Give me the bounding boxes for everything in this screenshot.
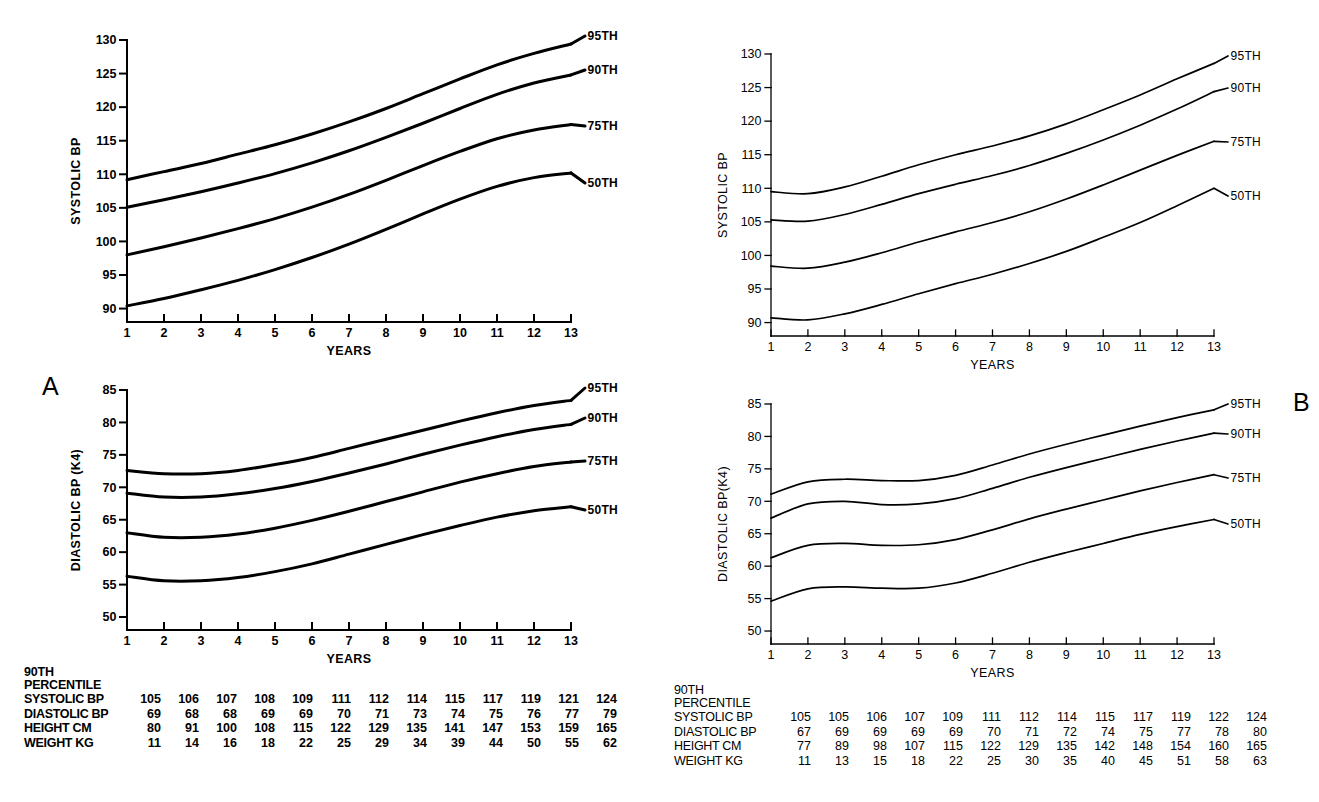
table-cell: 109 — [930, 710, 968, 725]
x-tick-label: 8 — [383, 326, 390, 340]
table-cell: 122 — [318, 721, 356, 736]
row-label: HEIGHT CM — [674, 739, 778, 754]
percentile-label: 90TH — [1231, 81, 1262, 95]
table-cell: 112 — [1006, 710, 1044, 725]
table-cell: 71 — [356, 706, 394, 721]
y-tick-label: 110 — [96, 168, 116, 182]
y-axis-title: DIASTOLIC BP(K4) — [716, 466, 730, 582]
table-cell: 105 — [778, 710, 816, 725]
x-tick-label: 3 — [198, 326, 205, 340]
y-tick-label: 50 — [103, 610, 117, 624]
percentile-curve — [127, 400, 571, 474]
table-cell: 129 — [1006, 739, 1044, 754]
table-cell: 71 — [1006, 724, 1044, 739]
percentile-curve — [771, 433, 1214, 518]
y-tick-label: 125 — [741, 81, 762, 95]
x-tick-label: 6 — [952, 648, 959, 662]
y-tick-label: 85 — [748, 397, 762, 411]
table-cell: 45 — [1120, 753, 1158, 768]
table-cell: 77 — [1158, 724, 1196, 739]
x-tick-label: 3 — [841, 648, 848, 662]
table-cell: 114 — [394, 692, 432, 707]
row-label: WEIGHT KG — [674, 753, 778, 768]
table-row: HEIGHT CM7789981071151221291351421481541… — [674, 739, 1272, 754]
table-cell: 165 — [584, 721, 622, 736]
x-tick-label: 7 — [346, 326, 353, 340]
chart-systolic-panel-b: 9095100105110115120125130123456789101112… — [660, 18, 1319, 388]
row-label: DIASTOLIC BP — [24, 706, 128, 721]
table-cell: 69 — [280, 706, 318, 721]
percentile-curve — [771, 63, 1214, 193]
x-tick-label: 4 — [878, 648, 885, 662]
table-cell: 115 — [930, 739, 968, 754]
table-cell: 58 — [1196, 753, 1234, 768]
x-tick-label: 5 — [915, 648, 922, 662]
y-tick-label: 55 — [748, 592, 762, 606]
table-row: SYSTOLIC BP10510510610710911111211411511… — [674, 710, 1272, 725]
x-tick-label: 8 — [383, 634, 390, 648]
x-tick-label: 10 — [1096, 340, 1110, 354]
y-tick-label: 70 — [748, 495, 762, 509]
x-tick-label: 2 — [804, 340, 811, 354]
percentile-curve — [771, 475, 1214, 558]
table-cell: 22 — [280, 735, 318, 750]
y-tick-label: 75 — [748, 462, 762, 476]
x-tick-label: 6 — [952, 340, 959, 354]
x-tick-label: 7 — [989, 648, 996, 662]
table-cell: 30 — [1006, 753, 1044, 768]
table-cell: 105 — [816, 710, 854, 725]
table-cell: 98 — [854, 739, 892, 754]
table-cell: 111 — [318, 692, 356, 707]
table-header-line1: 90TH — [674, 684, 1272, 697]
x-tick-label: 11 — [490, 326, 503, 340]
curve-leader-line — [1214, 88, 1228, 92]
x-tick-label: 7 — [346, 634, 353, 648]
x-tick-label: 2 — [161, 634, 168, 648]
data-table-panel-a: 90TH PERCENTILE SYSTOLIC BP1051061071081… — [24, 666, 622, 750]
table-cell: 72 — [1044, 724, 1082, 739]
chart-diastolic-panel-a: 505560657075808512345678910111213YEARSDI… — [0, 368, 660, 668]
y-tick-label: 130 — [96, 33, 117, 47]
table-cell: 76 — [508, 706, 546, 721]
x-tick-label: 12 — [1170, 340, 1184, 354]
table-cell: 29 — [356, 735, 394, 750]
table-cell: 106 — [166, 692, 204, 707]
curve-leader-line — [1214, 188, 1228, 196]
x-tick-label: 13 — [1207, 340, 1221, 354]
table-cell: 124 — [584, 692, 622, 707]
table-cell: 105 — [128, 692, 166, 707]
x-tick-label: 9 — [1063, 340, 1070, 354]
table-cell: 122 — [1196, 710, 1234, 725]
table-cell: 111 — [968, 710, 1006, 725]
table-cell: 69 — [854, 724, 892, 739]
table-cell: 11 — [128, 735, 166, 750]
table-cell: 25 — [968, 753, 1006, 768]
y-tick-label: 75 — [103, 448, 117, 462]
table-cell: 115 — [432, 692, 470, 707]
table-cell: 117 — [1120, 710, 1158, 725]
table-cell: 18 — [892, 753, 930, 768]
y-tick-label: 70 — [103, 481, 117, 495]
y-tick-label: 100 — [96, 235, 117, 249]
y-axis-title: DIASTOLIC BP (K4) — [69, 449, 83, 571]
y-tick-label: 90 — [748, 316, 762, 330]
y-tick-label: 115 — [742, 148, 762, 162]
curve-leader-line — [571, 418, 585, 424]
curve-leader-line — [571, 388, 585, 400]
curve-leader-line — [571, 507, 585, 510]
table-cell: 160 — [1196, 739, 1234, 754]
percentile-label: 50TH — [1231, 517, 1262, 531]
table-header-line1: 90TH — [24, 666, 622, 679]
y-tick-label: 105 — [741, 215, 762, 229]
x-tick-label: 4 — [235, 634, 242, 648]
x-tick-label: 5 — [272, 326, 279, 340]
table-cell: 11 — [778, 753, 816, 768]
y-tick-label: 65 — [748, 527, 762, 541]
x-axis-title: YEARS — [970, 358, 1014, 372]
table-cell: 115 — [280, 721, 318, 736]
row-label: DIASTOLIC BP — [674, 724, 778, 739]
table-cell: 135 — [394, 721, 432, 736]
x-tick-label: 11 — [1134, 340, 1147, 354]
x-tick-label: 12 — [1170, 648, 1184, 662]
table-cell: 107 — [892, 739, 930, 754]
